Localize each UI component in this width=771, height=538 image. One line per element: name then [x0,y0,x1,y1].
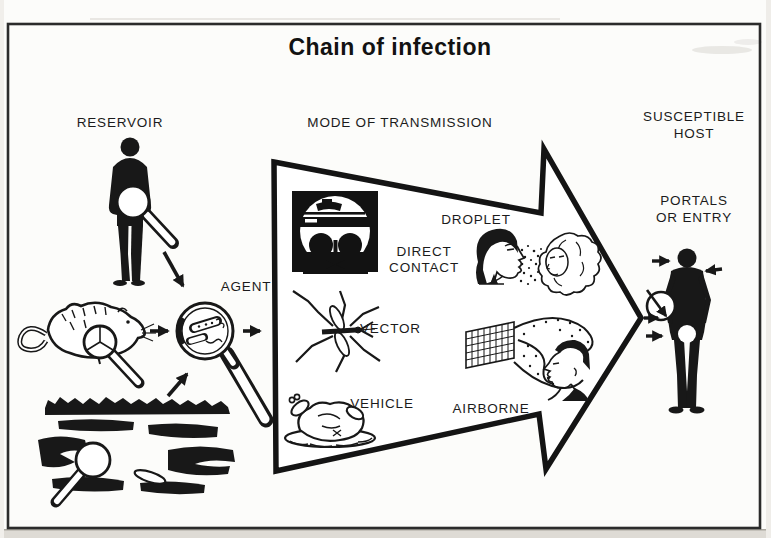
label-vehicle: VEHICLE [332,395,432,412]
susceptible-host-figure [644,249,722,414]
label-airborne: AIRBORNE [431,400,551,417]
label-portals-or-entry: PORTALS OR ENTRY [624,192,764,226]
label-susceptible-host: SUSCEPTIBLE HOST [624,108,764,142]
arrow-to-neck [706,269,722,271]
portal-magnifier-icon [647,290,675,320]
chain-of-infection-diagram: Chain of infection RESERVOIR MODE OF TRA… [0,0,771,538]
reservoir-animal-figure [20,303,156,383]
arrow-environment-to-agent [168,374,187,396]
direct-contact-image [292,191,378,274]
label-direct-contact: DIRECT CONTACT [368,244,480,276]
reservoir-human-figure [109,138,173,287]
label-vector: VECTOR [360,320,440,337]
diagram-title: Chain of infection [205,34,575,61]
label-reservoir: RESERVOIR [45,114,195,131]
arrow-human-to-agent [164,252,183,286]
label-mode-of-transmission: MODE OF TRANSMISSION [280,114,520,131]
portal-circle [678,325,696,343]
label-agent: AGENT [213,278,279,295]
reservoir-environment-figure [38,397,235,502]
label-droplet: DROPLET [416,211,536,228]
